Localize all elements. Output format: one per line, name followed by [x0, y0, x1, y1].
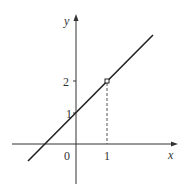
y-axis-label: y [63, 14, 70, 28]
x-axis-label: x [167, 148, 174, 162]
x-tick-label-1: 1 [104, 149, 110, 163]
function-line [28, 35, 153, 161]
origin-label: 0 [64, 149, 70, 163]
y-tick-label-2: 2 [63, 75, 69, 89]
x-axis-arrow-icon [171, 142, 178, 147]
function-graph: y x 0 1 2 1 [0, 0, 188, 194]
hollow-point-icon [105, 79, 109, 83]
plot-canvas: y x 0 1 2 1 [0, 0, 188, 194]
y-axis-arrow-icon [74, 14, 79, 21]
y-tick-label-1: 1 [66, 107, 72, 121]
